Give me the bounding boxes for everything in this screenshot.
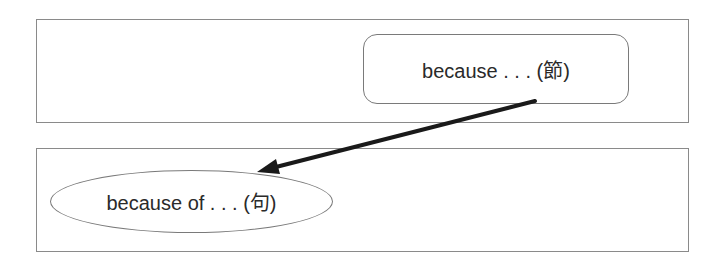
phrase-node-label: because of . . . (句) [106,187,276,216]
phrase-node: because of . . . (句) [50,170,333,233]
clause-node: because . . . (節) [363,34,629,104]
clause-node-label: because . . . (節) [422,55,570,84]
